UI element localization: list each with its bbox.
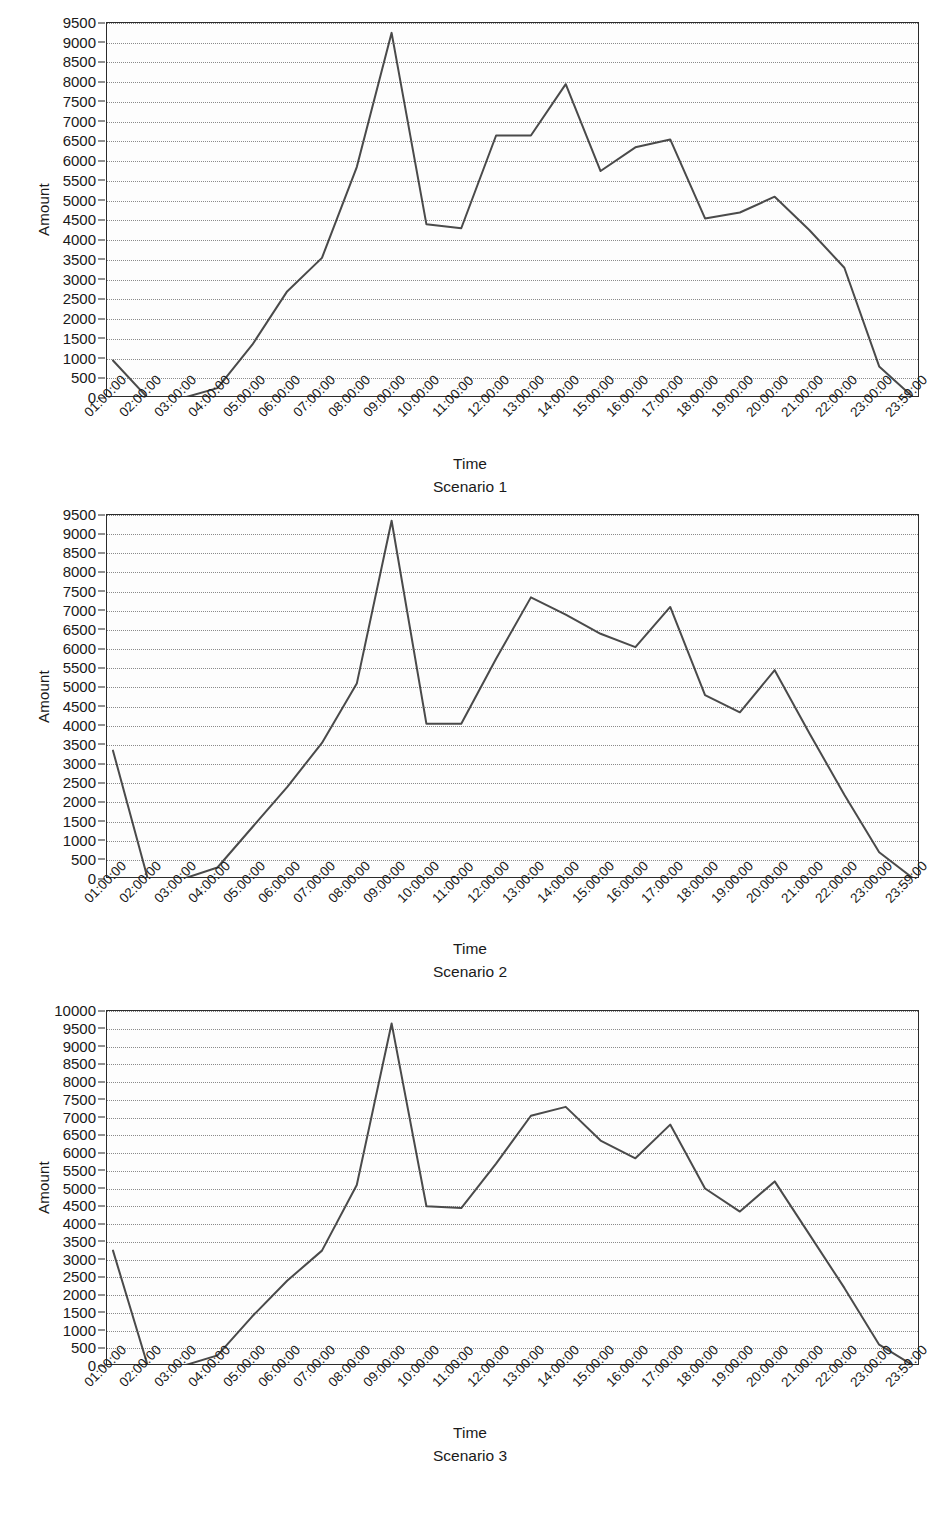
gridline <box>107 1118 918 1119</box>
x-tick-label: 10:00:00 <box>395 859 442 906</box>
y-tick-label: 2500 <box>63 1269 96 1284</box>
y-tick-label: 8000 <box>63 564 96 579</box>
x-tick-label: 03:00:00 <box>152 373 199 420</box>
series-polyline <box>113 521 914 878</box>
gridline <box>107 1331 918 1332</box>
chart-block-2: Amount0500100015002000250030003500400045… <box>0 0 940 1521</box>
gridline <box>107 572 918 573</box>
y-tick-label: 7500 <box>63 583 96 598</box>
x-tick-label: 05:00:00 <box>221 859 268 906</box>
gridline <box>107 841 918 842</box>
y-tick-label: 0 <box>88 1358 96 1373</box>
x-tick-label: 09:00:00 <box>361 373 408 420</box>
gridline <box>107 1064 918 1065</box>
x-tick-label: 07:00:00 <box>291 1343 338 1390</box>
y-tick-label: 4000 <box>63 1216 96 1231</box>
y-axis-title: Amount <box>26 1010 60 1365</box>
series-line <box>107 1011 919 1365</box>
y-tick-label: 6000 <box>63 153 96 168</box>
x-tick-label: 12:00:00 <box>465 859 512 906</box>
gridline <box>107 161 918 162</box>
x-tick-label: 08:00:00 <box>326 859 373 906</box>
y-tick-label: 9500 <box>63 15 96 30</box>
x-tick-label: 10:00:00 <box>395 373 442 420</box>
gridline <box>107 1295 918 1296</box>
gridline <box>107 339 918 340</box>
x-tick-label: 23:59:00 <box>883 859 930 906</box>
gridline <box>107 1135 918 1136</box>
gridline <box>107 802 918 803</box>
y-tick-label: 8000 <box>63 74 96 89</box>
y-tick-label: 0 <box>88 871 96 886</box>
gridline <box>107 201 918 202</box>
gridline <box>107 181 918 182</box>
y-tick-label: 9500 <box>63 1020 96 1035</box>
x-tick-label: 04:00:00 <box>186 1343 233 1390</box>
x-tick-label: 11:00:00 <box>430 860 476 906</box>
x-tick-label: 13:00:00 <box>500 373 547 420</box>
x-tick-label: 11:00:00 <box>430 1344 476 1390</box>
y-tick-label: 7500 <box>63 93 96 108</box>
x-tick-label: 19:00:00 <box>709 859 756 906</box>
x-tick-label: 17:00:00 <box>639 859 686 906</box>
gridline <box>107 1260 918 1261</box>
x-axis-title: Time <box>0 940 940 958</box>
x-tick-label: 19:00:00 <box>709 1343 756 1390</box>
x-tick-label: 02:00:00 <box>117 1343 164 1390</box>
x-tick-label: 19:00:00 <box>709 373 756 420</box>
y-tick-label: 3000 <box>63 271 96 286</box>
y-tick-label: 500 <box>71 851 96 866</box>
x-tick-label: 01:00:00 <box>82 373 129 420</box>
gridline <box>107 1189 918 1190</box>
plot-area <box>106 22 919 397</box>
x-tick-label: 22:00:00 <box>813 1343 860 1390</box>
gridline <box>107 82 918 83</box>
x-axis-title: Time <box>0 455 940 473</box>
gridline <box>107 1206 918 1207</box>
gridline <box>107 1224 918 1225</box>
chart-caption: Scenario 3 <box>0 1447 940 1465</box>
y-axis-title: Amount <box>26 514 60 878</box>
gridline <box>107 534 918 535</box>
y-tick-label: 500 <box>71 370 96 385</box>
x-tick-label: 18:00:00 <box>674 859 721 906</box>
gridline <box>107 649 918 650</box>
x-tick-label: 05:00:00 <box>221 373 268 420</box>
y-tick-label: 1000 <box>63 832 96 847</box>
x-tick-label: 07:00:00 <box>291 859 338 906</box>
x-tick-label: 02:00:00 <box>117 859 164 906</box>
y-tick-label: 2500 <box>63 291 96 306</box>
gridline <box>107 378 918 379</box>
gridline <box>107 280 918 281</box>
y-tick-label: 4500 <box>63 212 96 227</box>
series-line <box>107 23 919 397</box>
series-polyline <box>113 33 914 397</box>
y-tick-label: 6000 <box>63 641 96 656</box>
gridline <box>107 707 918 708</box>
x-tick-label: 15:00:00 <box>570 859 617 906</box>
x-tick-label: 04:00:00 <box>186 373 233 420</box>
gridline <box>107 1011 918 1012</box>
y-tick-label: 4500 <box>63 698 96 713</box>
x-tick-label: 20:00:00 <box>744 373 791 420</box>
x-tick-label: 21:00:00 <box>779 373 826 420</box>
gridline <box>107 43 918 44</box>
gridline <box>107 1082 918 1083</box>
y-tick-label: 7000 <box>63 602 96 617</box>
x-tick-label: 02:00:00 <box>117 373 164 420</box>
y-tick-label: 8500 <box>63 54 96 69</box>
y-tick-label: 6500 <box>63 621 96 636</box>
x-tick-label: 17:00:00 <box>639 373 686 420</box>
gridline <box>107 220 918 221</box>
y-tick-label: 6000 <box>63 1145 96 1160</box>
y-tick-label: 4500 <box>63 1198 96 1213</box>
x-tick-label: 15:00:00 <box>570 373 617 420</box>
x-tick-label: 06:00:00 <box>256 859 303 906</box>
x-tick-label: 21:00:00 <box>779 859 826 906</box>
y-tick-label: 6500 <box>63 133 96 148</box>
x-tick-label: 10:00:00 <box>395 1343 442 1390</box>
y-tick-label: 1500 <box>63 330 96 345</box>
x-tick-label: 20:00:00 <box>744 1343 791 1390</box>
x-tick-label: 16:00:00 <box>604 1343 651 1390</box>
y-tick-label: 1000 <box>63 1322 96 1337</box>
